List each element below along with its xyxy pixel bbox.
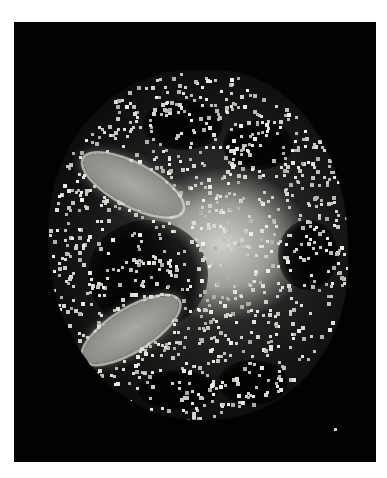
speckle: [237, 394, 241, 398]
speckle: [160, 166, 163, 169]
speckle: [155, 226, 158, 229]
speckle: [121, 99, 124, 102]
speckle: [292, 378, 296, 382]
speckle: [338, 271, 342, 275]
speckle: [102, 286, 105, 289]
speckle: [103, 196, 106, 199]
speckle: [117, 128, 120, 131]
speckle: [183, 396, 187, 400]
speckle: [49, 229, 53, 233]
speckle: [218, 116, 222, 120]
speckle: [301, 162, 304, 165]
speckle: [223, 352, 226, 355]
speckle: [249, 232, 253, 236]
speckle: [328, 159, 332, 163]
speckle: [197, 308, 200, 311]
speckle: [138, 160, 142, 164]
speckle: [249, 362, 252, 365]
speckle: [273, 121, 276, 124]
speckle: [250, 309, 253, 312]
speckle: [103, 131, 106, 134]
speckle: [345, 217, 348, 220]
speckle: [283, 174, 286, 177]
speckle: [162, 225, 165, 228]
speckle: [230, 92, 233, 95]
speckle: [277, 265, 280, 268]
speckle: [200, 315, 203, 318]
speckle: [143, 295, 146, 298]
speckle: [335, 252, 339, 256]
speckle: [224, 156, 228, 160]
speckle: [323, 176, 326, 179]
speckle: [199, 211, 203, 215]
speckle: [260, 115, 263, 118]
speckle: [145, 140, 149, 144]
speckle: [258, 374, 261, 377]
speckle: [66, 310, 70, 314]
speckle: [240, 295, 243, 298]
speckle: [135, 153, 139, 157]
speckle: [276, 385, 279, 388]
speckle: [116, 307, 120, 311]
speckle: [209, 349, 213, 353]
speckle: [96, 285, 99, 288]
speckle: [309, 238, 312, 241]
speckle: [264, 349, 268, 353]
speckle: [291, 194, 294, 197]
speckle: [98, 312, 101, 315]
speckle: [204, 322, 207, 325]
speckle: [269, 347, 273, 351]
specimen-cross-section: [48, 70, 348, 420]
speckle: [250, 331, 253, 334]
speckle: [173, 331, 176, 334]
speckle: [254, 273, 257, 276]
speckle: [78, 209, 81, 212]
speckle: [314, 196, 318, 200]
speckle: [229, 149, 233, 153]
speckle: [107, 219, 111, 223]
speckle: [316, 170, 320, 174]
speckle: [145, 345, 148, 348]
speckle: [115, 367, 118, 370]
speckle: [180, 132, 183, 135]
speckle: [221, 177, 224, 180]
speckle: [310, 274, 313, 277]
speckle: [190, 240, 194, 244]
speckle: [215, 339, 219, 343]
speckle: [184, 86, 187, 89]
speckle: [64, 229, 67, 232]
speckle: [211, 400, 214, 403]
speckle: [128, 382, 131, 385]
speckle: [96, 220, 99, 223]
speckle: [237, 181, 240, 184]
speckle: [225, 98, 228, 101]
speckle: [122, 304, 125, 307]
speckle: [335, 210, 338, 213]
speckle: [80, 198, 84, 202]
speckle: [292, 308, 296, 312]
speckle: [98, 136, 101, 139]
speckle: [212, 318, 215, 321]
speckle: [283, 256, 286, 259]
speckle: [224, 384, 227, 387]
speckle: [240, 153, 243, 156]
speckle: [219, 301, 222, 304]
speckle: [249, 94, 252, 97]
speckle: [207, 116, 211, 120]
speckle: [185, 391, 189, 395]
speckle: [208, 126, 212, 130]
speckle: [293, 333, 296, 336]
speckle: [191, 226, 194, 229]
speckle: [326, 237, 329, 240]
speckle: [220, 234, 223, 237]
speckle: [207, 178, 211, 182]
speckle: [275, 382, 278, 385]
speckle: [311, 285, 315, 289]
speckle: [138, 248, 141, 251]
speckle: [163, 250, 166, 253]
speckle: [267, 379, 270, 382]
speckle: [153, 158, 156, 161]
speckle: [237, 207, 240, 210]
speckle: [128, 209, 131, 212]
speckle: [67, 282, 70, 285]
